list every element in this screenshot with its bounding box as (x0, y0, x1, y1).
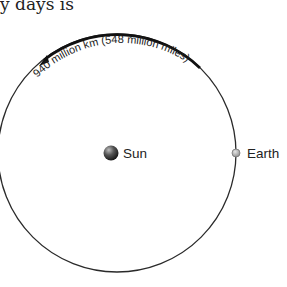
orbit-diagram: 940 million km (548 million miles) Sun E… (0, 0, 287, 287)
earth-label: Earth (247, 146, 279, 161)
distance-label: 940 million km (548 million miles) (30, 33, 192, 79)
sun-icon (104, 146, 119, 161)
sun-label: Sun (123, 146, 147, 161)
earth-icon (232, 149, 240, 157)
